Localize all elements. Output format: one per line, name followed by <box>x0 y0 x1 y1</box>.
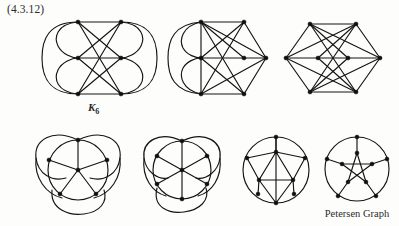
vertex <box>355 135 359 139</box>
vertex <box>325 157 329 161</box>
vertex <box>336 194 340 198</box>
vertex-center <box>180 168 184 172</box>
vertex <box>346 56 350 60</box>
vertex <box>205 154 209 158</box>
vertex <box>385 157 389 161</box>
vertex <box>291 178 295 182</box>
figure-petersen-graph <box>320 132 394 206</box>
edge-hex-br <box>356 58 380 92</box>
vertex <box>284 56 288 60</box>
arc-right-upper <box>121 22 143 58</box>
vertex <box>58 192 62 196</box>
caption-petersen-graph: Petersen Graph <box>320 208 394 219</box>
figure-k6-grid-embedding <box>38 12 160 104</box>
edge-hex-bl <box>286 58 310 92</box>
spoke-lower-right <box>78 170 96 194</box>
vertex <box>374 194 378 198</box>
vertex <box>180 197 184 201</box>
arc-outer-right <box>121 22 157 94</box>
arc-lobe-upper-right <box>78 135 120 179</box>
vertex <box>303 156 307 160</box>
vertex <box>76 92 80 96</box>
spoke-upper-left <box>247 152 276 158</box>
vertex <box>242 20 246 24</box>
spoke-lower-left <box>60 170 78 194</box>
figure-k6-hexagon-arcs <box>166 12 276 104</box>
vertex <box>76 20 80 24</box>
k6-hexagon-straight-drawing <box>280 12 392 104</box>
vertex <box>155 154 159 158</box>
vertex <box>199 92 203 96</box>
vertex <box>119 56 123 60</box>
vertex <box>370 162 374 166</box>
arc-lobe-right-tail <box>198 158 220 196</box>
vertex <box>340 162 344 166</box>
arc-lobe-upper-right <box>182 137 220 179</box>
scanned-page: (4.3.12) <box>0 0 399 226</box>
vertex <box>199 20 203 24</box>
figure-k6-hexagon-straight <box>280 12 392 104</box>
vertex <box>76 138 80 142</box>
spoke-right <box>293 158 305 180</box>
arc-left-upper <box>181 22 201 58</box>
vertex <box>155 182 159 186</box>
vertex <box>47 158 51 162</box>
vertex <box>354 90 358 94</box>
edge-tl-right <box>201 22 266 58</box>
spoke-5 <box>327 159 342 164</box>
spoke-upper-right <box>276 152 305 158</box>
star-edge-5 <box>348 153 357 182</box>
vertex <box>180 139 184 143</box>
edge-hex-tl <box>286 24 310 58</box>
vertex <box>274 135 278 139</box>
star-edge-1 <box>357 153 366 182</box>
vertex <box>308 90 312 94</box>
vertex <box>94 192 98 196</box>
spoke-upper-left <box>49 160 78 170</box>
spoke-left <box>247 158 259 180</box>
figure-wheel-w6-arcs <box>134 124 230 216</box>
vertex <box>242 92 246 96</box>
vertex <box>308 22 312 26</box>
vertex <box>257 178 261 182</box>
arc-left-lower <box>56 58 78 94</box>
arc-outer-left <box>168 22 201 94</box>
vertex <box>264 56 268 60</box>
edge-tr-right <box>244 22 266 58</box>
edge-hex-tr <box>356 24 380 58</box>
vertex <box>256 192 260 196</box>
wheel-w6-arcs-drawing <box>134 124 230 216</box>
arc-left-upper <box>56 22 78 58</box>
vertex <box>242 56 246 60</box>
arc-left-lower <box>181 58 201 94</box>
caption-k6: K6 <box>88 101 99 116</box>
figure-wheel-w5-arcs <box>28 124 128 216</box>
vertex <box>316 56 320 60</box>
edge-ml-br <box>201 58 244 94</box>
spoke-4 <box>338 182 348 196</box>
figure-circle-triangle-graph <box>238 132 314 212</box>
vertex <box>274 201 278 205</box>
petersen-graph-drawing <box>320 132 394 206</box>
vertex <box>76 56 80 60</box>
vertex <box>205 182 209 186</box>
vertex-center <box>76 168 80 172</box>
star-edge-4 <box>348 164 372 182</box>
spoke-upper-right <box>78 160 107 170</box>
k6-hexagon-arcs-drawing <box>166 12 276 104</box>
caption-k6-subscript: 6 <box>95 107 99 116</box>
arc-lobe-left-tail <box>144 158 166 196</box>
edge-bl-right <box>201 58 266 94</box>
k6-grid-embedding-drawing <box>38 12 160 104</box>
circle-triangle-drawing <box>238 132 314 212</box>
arc-right-lower <box>121 58 143 94</box>
arc-lobe-upper-left <box>144 137 182 179</box>
vertex <box>354 22 358 26</box>
star-edge-2 <box>342 164 366 182</box>
vertex <box>378 56 382 60</box>
vertex <box>355 151 359 155</box>
vertex <box>274 150 278 154</box>
vertex <box>199 56 203 60</box>
arc-lobe-upper-left <box>36 135 78 179</box>
arc-outer-left <box>42 22 78 94</box>
